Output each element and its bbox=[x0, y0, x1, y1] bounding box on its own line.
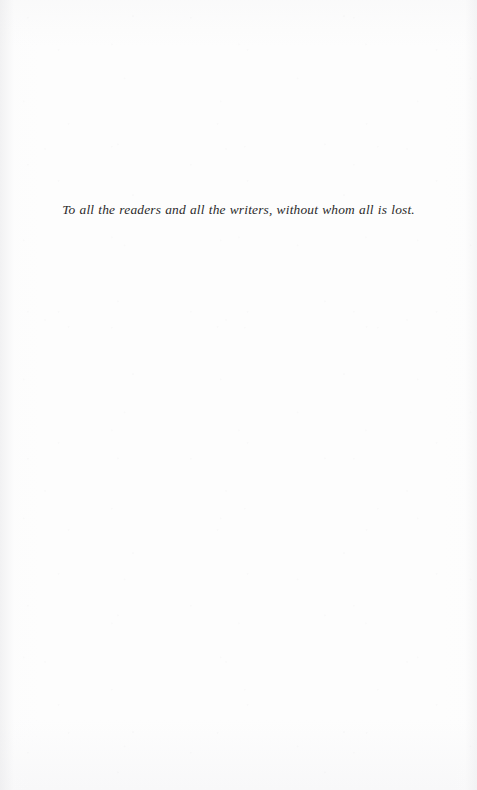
page-scan-noise bbox=[0, 0, 477, 790]
dedication-block: To all the readers and all the writers, … bbox=[0, 200, 477, 219]
dedication-text: To all the readers and all the writers, … bbox=[62, 201, 415, 219]
page-paper-texture bbox=[0, 0, 477, 790]
scanned-page: To all the readers and all the writers, … bbox=[0, 0, 477, 790]
